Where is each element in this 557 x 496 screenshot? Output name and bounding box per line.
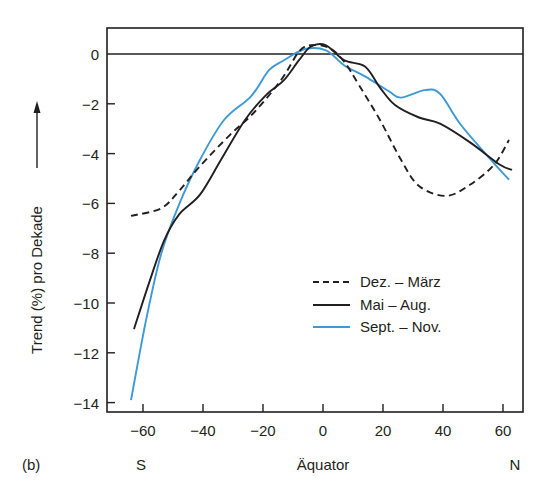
plot-border [107, 28, 523, 412]
y-axis-arrow-head-icon [34, 101, 41, 113]
legend-item: Mai – Aug. [313, 296, 431, 313]
x-axis: −60−40−200204060 [130, 404, 511, 439]
y-tick-label: −14 [74, 395, 99, 412]
chart: −60−40−200204060 0−2−4−6−8−10−12−14 (b) … [0, 0, 557, 496]
plot-frame [107, 28, 523, 412]
x-tick-label: 0 [319, 422, 327, 439]
y-tick-label: −8 [82, 245, 99, 262]
series-layer [131, 44, 512, 400]
y-tick-label: −10 [74, 295, 99, 312]
x-tick-label: −40 [190, 422, 215, 439]
legend-item: Dez. – März [313, 273, 441, 290]
y-tick-label: −2 [82, 96, 99, 113]
legend-label: Dez. – März [360, 273, 441, 290]
y-axis-label: Trend (%) pro Dekade [28, 206, 45, 354]
x-tick-label: −60 [130, 422, 155, 439]
y-tick-label: −6 [82, 195, 99, 212]
x-tick-label: 40 [435, 422, 452, 439]
y-tick-label: −12 [74, 345, 99, 362]
legend: Dez. – März Mai – Aug. Sept. – Nov. [313, 273, 441, 335]
x-tick-label: 20 [375, 422, 392, 439]
y-tick-label: 0 [91, 46, 99, 63]
legend-item: Sept. – Nov. [313, 318, 441, 335]
x-axis-label-north: N [510, 456, 521, 473]
x-tick-label: 60 [495, 422, 512, 439]
legend-label: Sept. – Nov. [360, 318, 441, 335]
panel-label: (b) [22, 456, 40, 473]
series-mai-aug-line [134, 44, 512, 329]
y-axis: 0−2−4−6−8−10−12−14 [74, 46, 115, 412]
legend-label: Mai – Aug. [360, 296, 431, 313]
x-axis-label-south: S [136, 456, 146, 473]
x-tick-label: −20 [250, 422, 275, 439]
y-tick-label: −4 [82, 146, 99, 163]
series-sept-nov-line [131, 48, 509, 400]
x-axis-label: Äquator [297, 456, 350, 473]
